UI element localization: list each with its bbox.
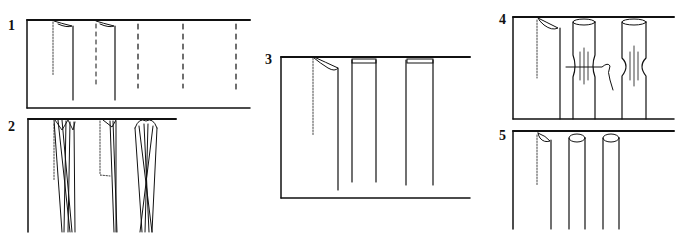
panel-4: 4 [499, 12, 674, 119]
pleat-diagram: 1 2 3 [0, 0, 682, 245]
panel-2: 2 [8, 119, 176, 232]
panel-label-2: 2 [8, 119, 15, 134]
panel-1: 1 [8, 18, 250, 108]
panel-5: 5 [499, 128, 674, 229]
panel-label-4: 4 [499, 12, 506, 27]
panel-label-5: 5 [499, 128, 506, 143]
panel-label-3: 3 [265, 52, 272, 67]
panel-3: 3 [265, 52, 470, 198]
panel-label-1: 1 [8, 18, 15, 33]
